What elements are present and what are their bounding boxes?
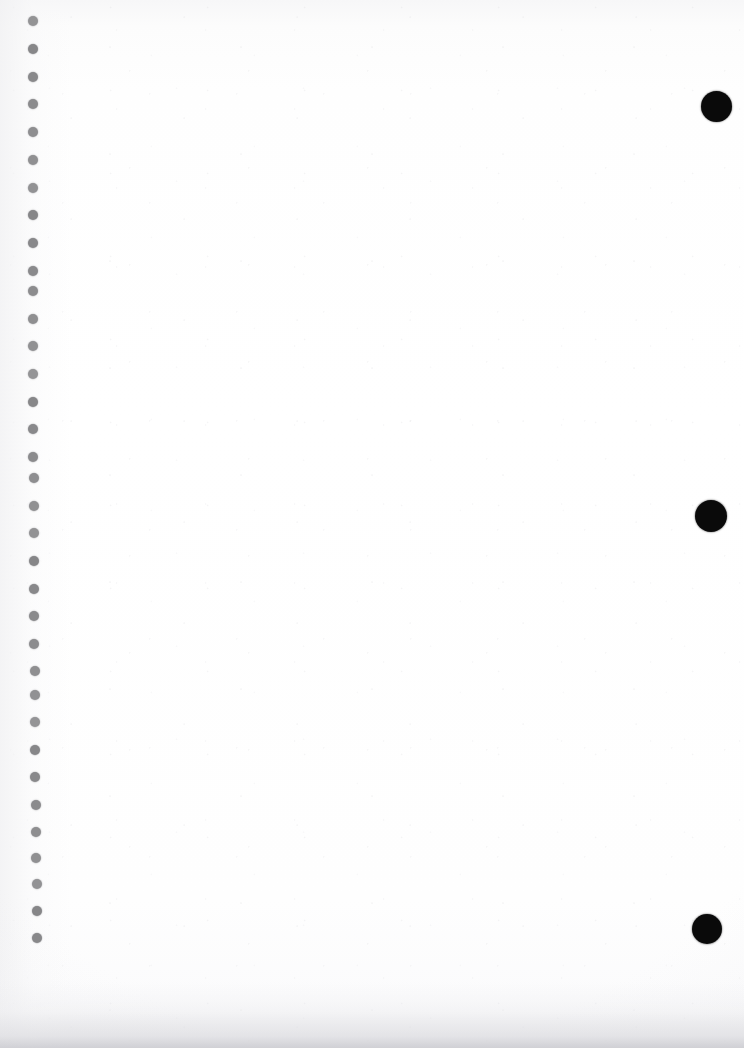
punch-hole <box>29 501 39 511</box>
punch-hole <box>31 827 41 837</box>
punch-hole <box>30 690 40 700</box>
paper-background <box>0 0 744 1048</box>
punch-hole <box>29 584 39 594</box>
punch-hole <box>28 286 38 296</box>
punch-hole <box>28 238 38 248</box>
punch-hole <box>28 452 38 462</box>
punch-hole <box>28 127 38 137</box>
ink-mark-middle <box>695 500 727 532</box>
scanned-page <box>0 0 744 1048</box>
punch-hole <box>28 424 38 434</box>
punch-hole <box>29 528 39 538</box>
punch-hole <box>29 556 39 566</box>
punch-hole <box>28 99 38 109</box>
punch-hole <box>29 639 39 649</box>
punch-hole <box>28 183 38 193</box>
punch-hole <box>28 72 38 82</box>
punch-hole <box>32 933 42 943</box>
punch-hole <box>31 853 41 863</box>
punch-hole <box>28 210 38 220</box>
punch-hole <box>30 745 40 755</box>
punch-hole <box>28 314 38 324</box>
punch-hole <box>30 717 40 727</box>
punch-hole <box>28 369 38 379</box>
punch-hole <box>32 879 42 889</box>
punch-hole <box>28 155 38 165</box>
punch-hole <box>28 16 38 26</box>
punch-hole <box>30 666 40 676</box>
punch-hole <box>29 611 39 621</box>
ink-mark-bottom <box>692 914 722 944</box>
punch-hole <box>28 266 38 276</box>
punch-hole <box>32 906 42 916</box>
punch-hole <box>28 397 38 407</box>
punch-hole <box>30 772 40 782</box>
punch-hole <box>31 800 41 810</box>
punch-hole <box>28 341 38 351</box>
ink-mark-top <box>701 91 732 122</box>
punch-hole <box>28 44 38 54</box>
punch-hole <box>29 473 39 483</box>
